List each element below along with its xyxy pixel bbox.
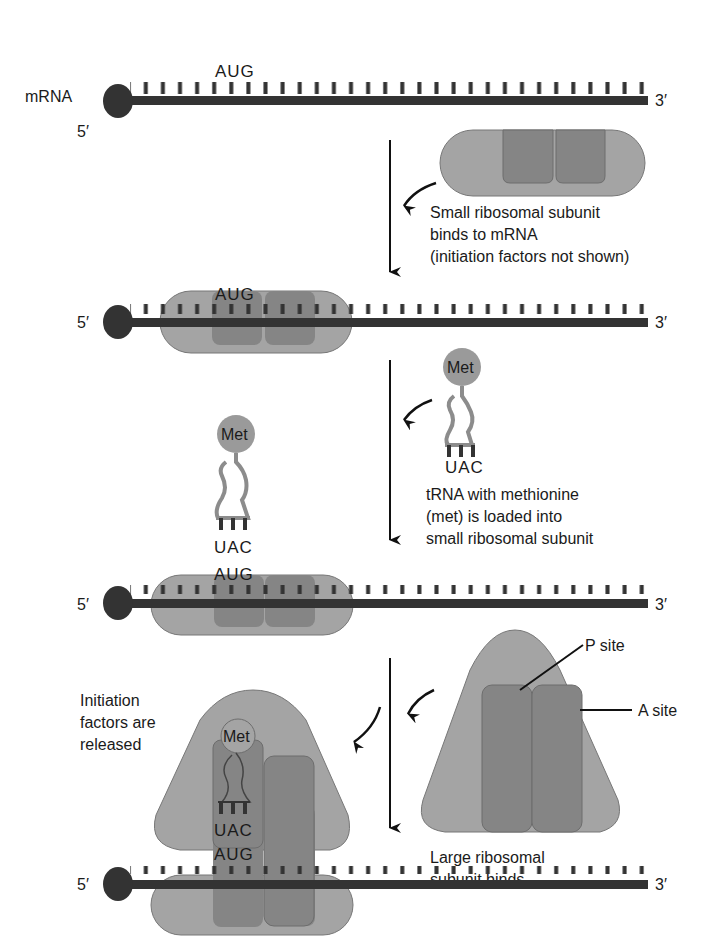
step-2-caption-line-2: (met) is loaded into [426,508,562,525]
assembled-ribosome: Met UAC AUG [151,690,353,935]
trna-free: Met UAC [443,348,484,477]
released-caption-line-1: Initiation [80,692,140,709]
translation-initiation-diagram: mRNA 5′ 3′ AUG Small ribosomal subunit b… [0,0,717,948]
start-codon-label: AUG [214,845,254,864]
released-caption-line-2: factors are [80,714,156,731]
p-site-label: P site [585,637,625,654]
mrna-strand-3: 5′ 3′ AUG [77,565,667,635]
release-arrow [354,707,380,742]
mrna-strand-1: mRNA 5′ 3′ AUG [25,62,667,140]
three-prime-label: 3′ [655,92,667,109]
met-label: Met [447,359,474,376]
start-codon-label: AUG [215,285,255,304]
anticodon-label: UAC [445,458,484,477]
anticodon-label: UAC [214,538,253,557]
step-1-caption-line-1: Small ribosomal subunit [430,204,600,221]
five-prime-label: 5′ [77,123,89,140]
three-prime-label: 3′ [655,876,667,893]
five-prime-label: 5′ [77,596,89,613]
five-prime-label: 5′ [77,876,89,893]
three-prime-label: 3′ [655,596,667,613]
five-prime-label: 5′ [77,314,89,331]
step-1-caption-line-2: binds to mRNA [430,226,538,243]
small-ribosomal-subunit-free [440,130,645,196]
step-3-caption-line-1: Large ribosomal [430,849,545,866]
binding-arrow-1 [404,183,436,206]
three-prime-label: 3′ [655,314,667,331]
step-2-caption-line-1: tRNA with methionine [426,486,579,503]
step-2-caption-line-3: small ribosomal subunit [426,530,594,547]
released-caption-line-3: released [80,736,141,753]
start-codon-label: AUG [214,565,254,584]
binding-arrow-3 [408,690,434,714]
start-codon-label: AUG [215,62,255,81]
binding-arrow-2 [404,400,432,420]
met-label: Met [223,728,250,745]
anticodon-label: UAC [214,821,253,840]
mrna-strand-2: 5′ 3′ AUG [77,285,667,353]
large-ribosomal-subunit-free: P site A site [421,630,677,832]
a-site-label: A site [638,702,677,719]
mrna-label: mRNA [25,88,72,105]
met-label: Met [221,426,248,443]
trna-docking: Met UAC [214,415,255,557]
step-1-caption-line-3: (initiation factors not shown) [430,248,629,265]
